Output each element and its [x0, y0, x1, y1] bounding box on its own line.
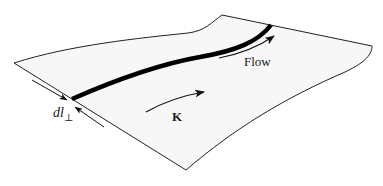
dl-perp-label-main: dl [53, 105, 64, 120]
k-vector-label: K [172, 109, 183, 124]
dl-perp-label-subscript: ⊥ [64, 112, 73, 123]
flow-label: Flow [244, 54, 271, 69]
dl-perp-label: dl⊥ [53, 105, 73, 123]
surface-current-diagram: Flow K dl⊥ [0, 0, 383, 186]
current-sheet [14, 15, 372, 170]
